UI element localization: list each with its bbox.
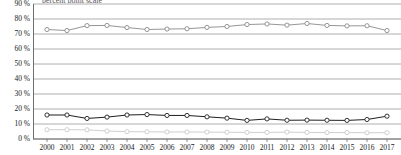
series-series-lower xyxy=(45,128,389,135)
datapoint-series-lower-2016 xyxy=(365,131,369,135)
datapoint-series-upper-2016 xyxy=(365,24,369,28)
y-axis-tick-0: 0 % xyxy=(0,135,30,143)
datapoint-series-middle-2016 xyxy=(365,117,369,121)
datapoint-series-middle-2000 xyxy=(45,113,49,117)
datapoint-series-middle-2015 xyxy=(345,118,349,122)
y-axis-tick-30: 30 % xyxy=(0,90,30,98)
datapoint-series-upper-2000 xyxy=(45,27,49,31)
y-axis-tick-80: 80 % xyxy=(0,15,30,23)
datapoint-series-upper-2010 xyxy=(245,22,249,26)
datapoint-series-lower-2017 xyxy=(385,131,389,135)
datapoint-series-lower-2008 xyxy=(205,130,209,134)
x-axis-tick-2017: 2017 xyxy=(372,143,401,152)
datapoint-series-upper-2014 xyxy=(325,23,329,27)
datapoint-series-upper-2012 xyxy=(285,23,289,27)
y-axis-labels: 90 %80 %70 %60 %50 %40 %30 %20 %10 %0 % xyxy=(0,0,33,155)
datapoint-series-lower-2002 xyxy=(85,128,89,132)
series-line-series-upper xyxy=(47,24,387,31)
datapoint-series-lower-2015 xyxy=(345,130,349,134)
datapoint-series-middle-2005 xyxy=(145,112,149,116)
datapoint-series-upper-2013 xyxy=(305,21,309,25)
plot-area xyxy=(33,0,401,155)
datapoint-series-lower-2004 xyxy=(125,130,129,134)
datapoint-series-lower-2013 xyxy=(305,130,309,134)
datapoint-series-middle-2013 xyxy=(305,118,309,122)
datapoint-series-lower-2011 xyxy=(265,130,269,134)
x-axis-labels: 2000200120022003200420052006200720082009… xyxy=(33,143,401,155)
datapoint-series-middle-2007 xyxy=(185,113,189,117)
datapoint-series-upper-2001 xyxy=(65,28,69,32)
datapoint-series-upper-2002 xyxy=(85,24,89,28)
datapoint-series-upper-2003 xyxy=(105,23,109,27)
series-series-middle xyxy=(45,112,389,122)
y-axis-tick-50: 50 % xyxy=(0,60,30,68)
y-axis-tick-70: 70 % xyxy=(0,30,30,38)
datapoint-series-middle-2006 xyxy=(165,113,169,117)
datapoint-series-upper-2007 xyxy=(185,27,189,31)
datapoint-series-middle-2011 xyxy=(265,117,269,121)
datapoint-series-lower-2009 xyxy=(225,130,229,134)
datapoint-series-upper-2017 xyxy=(385,28,389,32)
datapoint-series-lower-2003 xyxy=(105,129,109,133)
plot-svg xyxy=(33,0,401,155)
datapoint-series-middle-2001 xyxy=(65,113,69,117)
datapoint-series-middle-2017 xyxy=(385,114,389,118)
datapoint-series-middle-2009 xyxy=(225,116,229,120)
y-axis-tick-10: 10 % xyxy=(0,120,30,128)
datapoint-series-middle-2003 xyxy=(105,115,109,119)
datapoint-series-middle-2012 xyxy=(285,118,289,122)
datapoint-series-middle-2008 xyxy=(205,115,209,119)
datapoint-series-middle-2002 xyxy=(85,116,89,120)
datapoint-series-middle-2010 xyxy=(245,118,249,122)
datapoint-series-upper-2011 xyxy=(265,22,269,26)
datapoint-series-lower-2005 xyxy=(145,130,149,134)
datapoint-series-lower-2007 xyxy=(185,130,189,134)
y-axis-tick-20: 20 % xyxy=(0,105,30,113)
datapoint-series-middle-2014 xyxy=(325,118,329,122)
datapoint-series-upper-2015 xyxy=(345,24,349,28)
datapoint-series-upper-2009 xyxy=(225,24,229,28)
y-axis-tick-60: 60 % xyxy=(0,45,30,53)
y-axis-tick-90: 90 % xyxy=(0,0,30,8)
series-line-series-lower xyxy=(47,130,387,133)
datapoint-series-middle-2004 xyxy=(125,113,129,117)
datapoint-series-lower-2014 xyxy=(325,130,329,134)
datapoint-series-lower-2001 xyxy=(65,128,69,132)
datapoint-series-lower-2012 xyxy=(285,130,289,134)
series-line-series-middle xyxy=(47,115,387,121)
datapoint-series-upper-2004 xyxy=(125,25,129,29)
line-chart: percent point scale 90 %80 %70 %60 %50 %… xyxy=(0,0,401,155)
series-series-upper xyxy=(45,21,389,32)
datapoint-series-upper-2005 xyxy=(145,27,149,31)
datapoint-series-upper-2006 xyxy=(165,27,169,31)
y-axis-tick-40: 40 % xyxy=(0,75,30,83)
datapoint-series-lower-2010 xyxy=(245,130,249,134)
datapoint-series-lower-2006 xyxy=(165,130,169,134)
datapoint-series-upper-2008 xyxy=(205,25,209,29)
datapoint-series-lower-2000 xyxy=(45,128,49,132)
